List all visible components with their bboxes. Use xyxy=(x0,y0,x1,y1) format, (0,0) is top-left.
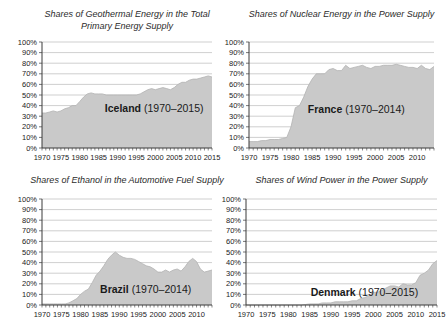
x-tick-label: 2010 xyxy=(409,153,426,162)
chart-panel-wind-denmark: Shares of Wind Power in the Power Supply… xyxy=(223,166,446,333)
x-tick-label: 1990 xyxy=(325,153,342,162)
y-tick-label: 90% xyxy=(226,205,241,214)
x-tick-label: 1995 xyxy=(128,153,145,162)
x-tick-label: 2000 xyxy=(367,153,384,162)
series-country: Iceland xyxy=(105,102,141,114)
x-tick-label: 1980 xyxy=(283,153,300,162)
y-tick-label: 80% xyxy=(229,59,244,68)
x-tick-label: 1970 xyxy=(238,310,255,319)
y-tick-label: 70% xyxy=(22,69,37,78)
y-tick-label: 30% xyxy=(22,112,37,121)
x-tick-label: 1970 xyxy=(241,153,258,162)
area-chart-nuclear-france: 0%10%20%30%40%50%60%70%80%90%100%1970197… xyxy=(223,0,446,166)
x-tick-label: 2000 xyxy=(150,310,167,319)
area-fill xyxy=(246,261,437,306)
area-chart-geothermal-iceland: 0%10%20%30%40%50%60%70%80%90%100%1970197… xyxy=(0,0,223,166)
x-tick-label: 1975 xyxy=(259,310,276,319)
y-tick-label: 70% xyxy=(226,226,241,235)
x-tick-label: 1980 xyxy=(280,310,297,319)
y-tick-label: 0% xyxy=(233,144,244,153)
y-tick-label: 80% xyxy=(22,216,37,225)
y-tick-label: 90% xyxy=(22,48,37,57)
x-tick-label: 2000 xyxy=(365,310,382,319)
x-tick-label: 2010 xyxy=(185,153,202,162)
y-tick-label: 0% xyxy=(26,301,37,310)
y-tick-label: 0% xyxy=(230,301,241,310)
y-tick-label: 10% xyxy=(229,133,244,142)
y-tick-label: 20% xyxy=(22,279,37,288)
y-tick-label: 30% xyxy=(229,112,244,121)
x-tick-label: 2015 xyxy=(204,153,221,162)
x-tick-label: 2015 xyxy=(429,310,446,319)
x-tick-label: 2005 xyxy=(166,153,183,162)
y-tick-label: 20% xyxy=(229,122,244,131)
series-label-france: France(1970–2014) xyxy=(308,103,405,115)
y-tick-label: 50% xyxy=(229,91,244,100)
y-tick-label: 60% xyxy=(226,237,241,246)
y-tick-label: 40% xyxy=(22,258,37,267)
series-range: (1970–2015) xyxy=(359,286,419,298)
x-tick-label: 1985 xyxy=(90,153,107,162)
series-country: France xyxy=(308,103,342,115)
x-tick-label: 1985 xyxy=(301,310,318,319)
x-tick-label: 1970 xyxy=(34,153,51,162)
x-tick-label: 2005 xyxy=(388,153,405,162)
y-tick-label: 10% xyxy=(22,133,37,142)
y-tick-label: 20% xyxy=(22,122,37,131)
y-tick-label: 40% xyxy=(229,101,244,110)
x-tick-label: 2005 xyxy=(169,310,186,319)
figure-four-area-charts: Shares of Geothermal Energy in the Total… xyxy=(0,0,446,333)
y-tick-label: 90% xyxy=(229,48,244,57)
series-range: (1970–2014) xyxy=(345,103,405,115)
y-tick-label: 70% xyxy=(22,226,37,235)
series-label-brazil: Brazil(1970–2014) xyxy=(100,283,191,295)
x-tick-label: 1995 xyxy=(130,310,147,319)
series-range: (1970–2015) xyxy=(144,102,204,114)
x-tick-label: 1975 xyxy=(53,153,70,162)
y-tick-label: 100% xyxy=(18,38,38,47)
y-tick-label: 90% xyxy=(22,205,37,214)
y-tick-label: 100% xyxy=(222,195,242,204)
series-country: Denmark xyxy=(311,286,356,298)
y-tick-label: 80% xyxy=(22,59,37,68)
x-tick-label: 1990 xyxy=(111,310,128,319)
x-tick-label: 1990 xyxy=(323,310,340,319)
x-tick-label: 2010 xyxy=(188,310,205,319)
y-tick-label: 60% xyxy=(229,80,244,89)
x-tick-label: 1990 xyxy=(109,153,126,162)
y-tick-label: 50% xyxy=(22,91,37,100)
x-tick-label: 1995 xyxy=(344,310,361,319)
y-tick-label: 30% xyxy=(226,269,241,278)
x-tick-label: 2000 xyxy=(147,153,164,162)
y-tick-label: 40% xyxy=(22,101,37,110)
series-range: (1970–2014) xyxy=(132,283,192,295)
y-tick-label: 60% xyxy=(22,237,37,246)
series-label-denmark: Denmark(1970–2015) xyxy=(311,286,419,298)
area-fill xyxy=(42,252,212,305)
y-tick-label: 20% xyxy=(226,279,241,288)
x-tick-label: 1995 xyxy=(346,153,363,162)
x-tick-label: 1980 xyxy=(72,310,89,319)
x-tick-label: 1975 xyxy=(53,310,70,319)
x-tick-label: 2010 xyxy=(407,310,424,319)
y-tick-label: 10% xyxy=(226,290,241,299)
y-tick-label: 50% xyxy=(226,248,241,257)
series-label-iceland: Iceland(1970–2015) xyxy=(105,102,204,114)
area-chart-ethanol-brazil: 0%10%20%30%40%50%60%70%80%90%100%1970197… xyxy=(0,166,223,333)
chart-panel-nuclear-france: Shares of Nuclear Energy in the Power Su… xyxy=(223,0,446,166)
x-tick-label: 1975 xyxy=(262,153,279,162)
x-tick-label: 1985 xyxy=(92,310,109,319)
y-tick-label: 50% xyxy=(22,248,37,257)
y-tick-label: 70% xyxy=(229,69,244,78)
y-tick-label: 10% xyxy=(22,290,37,299)
x-tick-label: 2005 xyxy=(386,310,403,319)
y-tick-label: 30% xyxy=(22,269,37,278)
y-tick-label: 40% xyxy=(226,258,241,267)
x-tick-label: 1970 xyxy=(34,310,51,319)
area-chart-wind-denmark: 0%10%20%30%40%50%60%70%80%90%100%1970197… xyxy=(223,166,446,333)
series-country: Brazil xyxy=(100,283,129,295)
x-tick-label: 1985 xyxy=(304,153,321,162)
chart-panel-ethanol-brazil: Shares of Ethanol in the Automotive Fuel… xyxy=(0,166,223,333)
y-tick-label: 100% xyxy=(18,195,38,204)
chart-panel-geothermal-iceland: Shares of Geothermal Energy in the Total… xyxy=(0,0,223,166)
